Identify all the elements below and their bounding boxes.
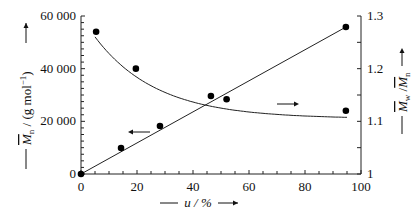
y-right-title: Mw /Mn (395, 72, 412, 113)
arrow-left-icon (128, 130, 133, 135)
x-tick-label: 60 (243, 179, 256, 194)
y-left-title: Mn / (g mol−1) (18, 71, 36, 146)
y-right-tick-label: 1.1 (367, 113, 383, 128)
y-right-tick-label: 1 (367, 166, 374, 181)
dispersity-point (223, 96, 230, 103)
mn-point (343, 24, 350, 31)
dispersity-fit-curve (95, 37, 347, 117)
y-left-tick-label: 20 000 (40, 113, 76, 128)
dispersity-point (93, 29, 100, 36)
x-tick-label: 80 (299, 179, 312, 194)
y-right-tick-label: 1.2 (367, 61, 383, 76)
chart: 020406080100020 00040 00060 00011.11.21.… (0, 0, 418, 217)
fit-lines (81, 26, 347, 174)
mn-point (118, 145, 125, 152)
y-left-tick-label: 60 000 (40, 8, 76, 23)
arrow-right-icon (294, 102, 299, 107)
x-axis-title: u / % (184, 195, 212, 210)
dispersity-point (208, 93, 215, 100)
y-left-tick-label: 0 (70, 166, 77, 181)
arrow-up-icon (24, 23, 29, 28)
mn-point (157, 123, 164, 130)
dispersity-point (343, 108, 350, 115)
y-left-tick-label: 40 000 (40, 61, 76, 76)
x-tick-label: 100 (351, 179, 371, 194)
x-tick-label: 40 (187, 179, 200, 194)
x-tick-label: 20 (131, 179, 144, 194)
x-tick-label: 0 (78, 179, 85, 194)
arrow-right-icon (233, 201, 238, 206)
mn-fit-line (81, 26, 347, 174)
y-right-tick-label: 1.3 (367, 8, 383, 23)
mn-point (78, 171, 85, 178)
arrow-up-icon (400, 48, 405, 53)
x-axis-label: u / % (160, 195, 238, 210)
dispersity-point (133, 65, 140, 72)
y-axis-left-label: Mn / (g mol−1) (18, 23, 36, 169)
y-axis-right-label: Mw /Mn (395, 48, 412, 134)
